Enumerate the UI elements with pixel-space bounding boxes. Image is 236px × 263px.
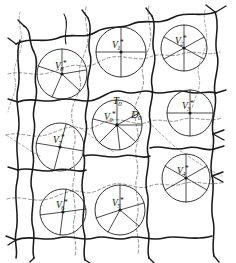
cell-boundary bbox=[24, 26, 37, 258]
edge-stub bbox=[8, 38, 16, 44]
dual-edge bbox=[135, 76, 144, 144]
edge-stub bbox=[206, 5, 215, 12]
edge-stub-group bbox=[6, 5, 226, 263]
dual-edge bbox=[136, 218, 139, 254]
inscribed-circle-v6 bbox=[40, 189, 86, 235]
inscribed-circle-v1 bbox=[96, 27, 146, 77]
edge-stub bbox=[216, 90, 226, 93]
cell-boundary bbox=[150, 147, 214, 150]
cell-boundary bbox=[149, 16, 155, 120]
dual-edge bbox=[150, 52, 220, 57]
cell-boundary bbox=[94, 91, 152, 100]
cell-boundary bbox=[84, 155, 150, 157]
cell-boundary bbox=[146, 120, 151, 258]
dual-edge bbox=[6, 135, 40, 156]
inscribed-circle-v0 bbox=[92, 100, 142, 150]
edge-stub bbox=[214, 146, 224, 149]
cell-boundary bbox=[64, 14, 67, 44]
edge-stub bbox=[6, 236, 16, 240]
dual-edge bbox=[148, 118, 222, 122]
edge-stub bbox=[213, 134, 224, 140]
dual-edge bbox=[82, 57, 150, 67]
edge-stub bbox=[213, 130, 224, 134]
edge-stub bbox=[214, 256, 219, 262]
edge-stub bbox=[8, 167, 18, 170]
inscribed-circle-v2 bbox=[161, 25, 207, 71]
dual-edge bbox=[8, 79, 16, 112]
tessellation-canvas bbox=[0, 0, 236, 263]
tessellation-figure: T0 D0 V0* V1* V2* V3* V4* V5* V6* V7* V8… bbox=[0, 0, 236, 263]
dual-edge bbox=[73, 146, 75, 220]
inscribed-circle-v3 bbox=[167, 90, 213, 136]
inscribed-circle-v4 bbox=[162, 154, 210, 202]
cell-boundary bbox=[16, 12, 216, 44]
edge-stub bbox=[216, 6, 226, 12]
edge-stub bbox=[18, 20, 24, 26]
inscribed-circle-v5 bbox=[95, 185, 145, 235]
dual-edge bbox=[198, 10, 206, 77]
dual-edge bbox=[72, 78, 81, 146]
inscribed-circle-v8 bbox=[37, 49, 87, 99]
cell-boundary bbox=[16, 236, 212, 240]
edge-stub bbox=[82, 10, 88, 18]
dual-edge bbox=[136, 144, 138, 218]
cell-boundary bbox=[18, 99, 94, 102]
edge-stub bbox=[146, 8, 152, 16]
edge-stub bbox=[149, 258, 154, 263]
edge-stub bbox=[30, 258, 34, 262]
edge-stub bbox=[8, 240, 16, 245]
